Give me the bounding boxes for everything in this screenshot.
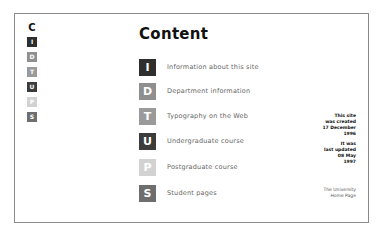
content-link-typography[interactable]: T Typography on the Web bbox=[139, 107, 248, 125]
letter-tile-icon[interactable]: U bbox=[139, 133, 156, 150]
sidebar-item-undergraduate[interactable]: U bbox=[27, 82, 37, 92]
updated-note: It was last updated 08 May 1997 bbox=[324, 141, 356, 165]
link-label[interactable]: Department information bbox=[167, 87, 250, 95]
link-label[interactable]: Undergraduate course bbox=[167, 137, 244, 145]
content-link-postgraduate[interactable]: P Postgraduate course bbox=[139, 158, 238, 176]
content-link-students[interactable]: S Student pages bbox=[139, 184, 217, 202]
sidebar-item-typography[interactable]: T bbox=[27, 67, 37, 77]
content-link-department[interactable]: D Department information bbox=[139, 82, 250, 100]
letter-tile-icon[interactable]: P bbox=[139, 159, 156, 176]
letter-tile-icon[interactable]: I bbox=[139, 59, 156, 76]
sidebar-heading: C bbox=[26, 22, 38, 34]
page-title: Content bbox=[139, 25, 208, 43]
link-label[interactable]: Postgraduate course bbox=[167, 163, 238, 171]
sidebar-item-postgraduate[interactable]: P bbox=[27, 97, 37, 107]
created-note: This site was created 17 December 1996 bbox=[322, 113, 356, 137]
link-label[interactable]: Student pages bbox=[167, 189, 217, 197]
sidebar-item-information[interactable]: I bbox=[27, 37, 37, 47]
sidebar-item-students[interactable]: S bbox=[27, 112, 37, 122]
content-link-undergraduate[interactable]: U Undergraduate course bbox=[139, 132, 244, 150]
letter-tile-icon[interactable]: S bbox=[139, 185, 156, 202]
letter-tile-icon[interactable]: D bbox=[139, 83, 156, 100]
letter-tile-icon[interactable]: T bbox=[139, 108, 156, 125]
content-link-information[interactable]: I Information about this site bbox=[139, 58, 259, 76]
sidebar-nav: C I D T U P S bbox=[26, 22, 38, 127]
university-home-link[interactable]: The University Home Page bbox=[324, 187, 357, 199]
sidebar-item-department[interactable]: D bbox=[27, 52, 37, 62]
link-label[interactable]: Typography on the Web bbox=[167, 112, 248, 120]
link-label[interactable]: Information about this site bbox=[167, 63, 259, 71]
